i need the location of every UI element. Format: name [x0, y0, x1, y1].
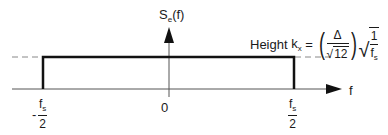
height-annotation: Height kx = ( Δ √12 ) √ 1 fs — [250, 24, 379, 64]
y-axis-label: Se(f) — [159, 8, 184, 24]
y-axis-arrow-icon — [164, 27, 174, 43]
x-axis-arrow-icon — [326, 84, 342, 94]
left-tick-label: fs 2 — [38, 98, 47, 130]
left-tick-sign: - — [32, 108, 36, 121]
spectrum-plot — [0, 0, 388, 135]
x-axis-label: f — [349, 84, 353, 97]
origin-label: 0 — [161, 101, 168, 114]
right-tick-label: fs 2 — [288, 98, 297, 130]
